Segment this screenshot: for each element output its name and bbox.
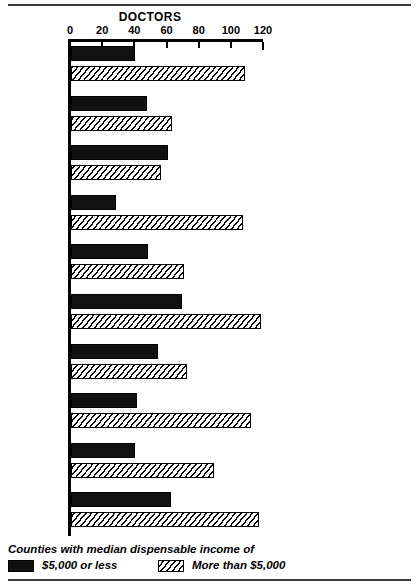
bar-low-income <box>71 294 182 309</box>
bar-low-income <box>71 393 137 408</box>
x-axis-tick-label: 60 <box>160 24 172 36</box>
legend-label-high-income: More than $5,000 <box>192 559 285 571</box>
x-axis-tick-label: 100 <box>222 24 240 36</box>
bar-group <box>0 92 419 142</box>
x-axis-tick-label: 20 <box>96 24 108 36</box>
x-axis-tick-label: 120 <box>254 24 272 36</box>
bar-group <box>0 141 419 191</box>
legend-swatch-low-income <box>8 560 34 572</box>
bar-group <box>0 191 419 241</box>
bar-high-income <box>71 463 214 478</box>
legend-label-low-income: $5,000 or less <box>42 559 117 571</box>
bar-group <box>0 290 419 340</box>
bar-low-income <box>71 46 135 61</box>
legend-caption: Counties with median dispensable income … <box>8 543 411 555</box>
bar-group <box>0 240 419 290</box>
bar-high-income <box>71 215 243 230</box>
bottom-divider <box>8 579 411 581</box>
bar-low-income <box>71 195 116 210</box>
x-axis-tick-label: 0 <box>67 24 73 36</box>
bar-low-income <box>71 492 171 507</box>
x-axis-tick-label: 40 <box>128 24 140 36</box>
chart-title: DOCTORS <box>0 10 300 24</box>
top-divider <box>8 4 411 6</box>
bar-group <box>0 439 419 489</box>
chart-legend: Counties with median dispensable income … <box>8 543 411 575</box>
bar-high-income <box>71 165 161 180</box>
bar-low-income <box>71 443 135 458</box>
legend-items: $5,000 or less More than $5,000 <box>8 559 411 575</box>
bar-group <box>0 340 419 390</box>
bar-group <box>0 42 419 92</box>
bar-group <box>0 389 419 439</box>
bar-high-income <box>71 116 172 131</box>
bar-low-income <box>71 96 147 111</box>
bar-high-income <box>71 364 187 379</box>
bar-high-income <box>71 314 261 329</box>
bar-low-income <box>71 244 148 259</box>
chart-page: DOCTORS 020406080100120 Counties with me… <box>0 0 419 587</box>
bar-low-income <box>71 344 158 359</box>
bar-high-income <box>71 512 259 527</box>
x-axis-tick-label: 80 <box>193 24 205 36</box>
bar-group <box>0 488 419 538</box>
bar-high-income <box>71 264 184 279</box>
bar-low-income <box>71 145 168 160</box>
bar-high-income <box>71 66 245 81</box>
bar-high-income <box>71 413 251 428</box>
plot-area <box>0 42 419 538</box>
legend-swatch-high-income <box>158 560 184 572</box>
